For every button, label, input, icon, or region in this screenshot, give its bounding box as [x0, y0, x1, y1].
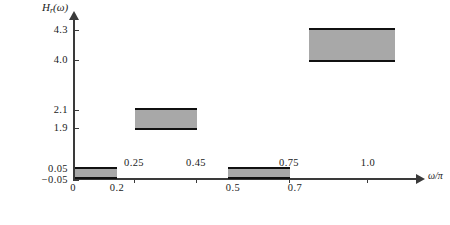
y-tick-label-1.9: 1.9	[54, 122, 68, 133]
band-passband-mid	[135, 108, 197, 130]
y-axis-line	[73, 18, 75, 179]
y-tick-mark-1.9	[73, 128, 79, 129]
x-axis-arrow-icon	[416, 174, 425, 184]
band-passband-high	[309, 28, 395, 62]
y-tick-label-wrap-4.3: 4.3	[8, 24, 68, 36]
y-tick-label-0.05: 0.05	[48, 163, 68, 174]
chart-figure: Hr(ω) ω/π 4.3 4.0 2.1 1.9 0.05 −0.05 0.2…	[0, 0, 450, 225]
y-axis-arrow-icon	[69, 11, 79, 20]
y-tick-label-4.0: 4.0	[54, 54, 68, 65]
y-axis-title: Hr(ω)	[42, 1, 68, 15]
y-tick-mark-neg0.05	[73, 180, 79, 181]
y-tick-mark-4.3	[73, 30, 79, 31]
y-axis-title-main: H	[42, 1, 50, 13]
x-tick-label-0.2: 0.2	[101, 182, 133, 193]
y-tick-label-4.3: 4.3	[54, 24, 68, 35]
x-tick-label-0.45: 0.45	[176, 157, 216, 168]
y-tick-mark-4.0	[73, 60, 79, 61]
band-stopband-ripple-low	[75, 167, 117, 179]
y-tick-label-wrap-1.9: 1.9	[8, 122, 68, 134]
x-tick-label-0.7: 0.7	[279, 182, 311, 193]
x-tick-mark-1.0	[367, 178, 368, 183]
y-tick-mark-2.1	[73, 110, 79, 111]
y-tick-label-2.1: 2.1	[54, 104, 68, 115]
x-tick-label-0.25: 0.25	[114, 157, 154, 168]
x-tick-label-0: 0	[61, 182, 85, 193]
y-tick-label-wrap-4.0: 4.0	[8, 54, 68, 66]
x-axis-title: ω/π	[428, 170, 443, 181]
x-tick-label-0.5: 0.5	[217, 182, 249, 193]
y-tick-label-wrap-2.1: 2.1	[8, 104, 68, 116]
band-stopband-ripple-mid	[228, 167, 290, 179]
x-tick-mark-0.45	[196, 178, 197, 183]
y-tick-label-wrap-neg0.05: −0.05	[8, 174, 68, 186]
x-tick-mark-0.25	[134, 178, 135, 183]
y-axis-title-arg: (ω)	[53, 1, 68, 13]
x-tick-label-1.0: 1.0	[350, 157, 386, 168]
